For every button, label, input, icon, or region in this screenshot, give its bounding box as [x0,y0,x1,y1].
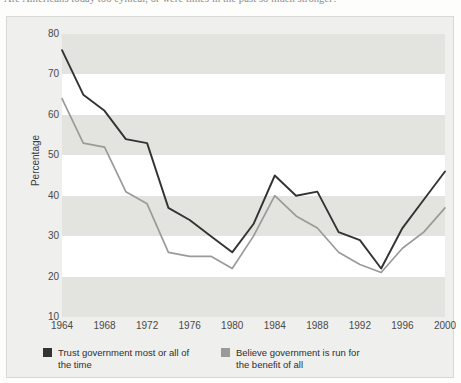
figure-caption-strip: Are Americans today too cynical, or were… [0,0,461,11]
chart-legend: Trust government most or all of the time… [43,347,443,375]
x-axis-tick-label: 1968 [85,320,125,331]
figure-caption: Are Americans today too cynical, or were… [4,0,338,4]
x-axis-tick-label: 1980 [212,320,252,331]
series-lines [62,34,445,317]
y-axis-ticks: 8070605040302010 [19,34,59,317]
x-axis-ticks: 1964196819721976198019841988199219962000 [62,320,445,336]
y-axis-tick-label: 50 [33,150,59,160]
figure-panel: Percentage 8070605040302010 196419681972… [6,16,454,378]
x-axis-tick-label: 1964 [42,320,82,331]
x-axis-tick-label: 1972 [127,320,167,331]
x-axis-tick-label: 1976 [170,320,210,331]
legend-label: Believe government is run for the benefi… [236,347,368,370]
y-axis-tick-label: 20 [33,272,59,282]
legend-swatch-trust [43,348,52,357]
y-axis-tick-label: 60 [33,110,59,120]
legend-label: Trust government most or all of the time [58,347,190,370]
y-axis-tick-label: 80 [33,29,59,39]
legend-entry: Trust government most or all of the time [43,347,190,370]
y-axis-tick-label: 30 [33,231,59,241]
legend-entry: Believe government is run for the benefi… [221,347,368,370]
y-axis-tick-label: 70 [33,69,59,79]
x-axis-tick-label: 1988 [297,320,337,331]
legend-swatch-benefit [221,348,230,357]
x-axis-tick-label: 2000 [425,320,461,331]
series-line [62,99,445,273]
plot-area [62,34,445,317]
x-axis-tick-label: 1992 [340,320,380,331]
x-axis-tick-label: 1984 [255,320,295,331]
x-axis-tick-label: 1996 [382,320,422,331]
y-axis-tick-label: 40 [33,191,59,201]
